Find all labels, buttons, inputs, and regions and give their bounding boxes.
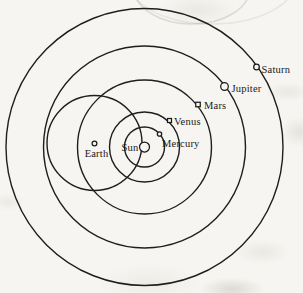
jupiter-label: Jupiter bbox=[232, 83, 262, 94]
jupiter-marker bbox=[221, 83, 229, 91]
mercury-label: Mercury bbox=[162, 138, 200, 149]
planet-markers-and-labels: SunMercuryVenusEarthMarsJupiterSaturn bbox=[85, 64, 291, 159]
planetary-system-diagram: SunMercuryVenusEarthMarsJupiterSaturn bbox=[0, 0, 303, 293]
scanned-book-page: SunMercuryVenusEarthMarsJupiterSaturn bbox=[0, 0, 303, 293]
mars-marker bbox=[196, 102, 201, 107]
sun-label: Sun bbox=[122, 142, 139, 153]
mercury-marker bbox=[157, 132, 161, 136]
saturn-label: Saturn bbox=[262, 64, 291, 75]
sun-marker bbox=[140, 142, 150, 152]
earth-marker bbox=[92, 141, 97, 146]
scan-ghost-arc bbox=[134, 0, 250, 24]
earth-label: Earth bbox=[85, 148, 109, 159]
venus-marker bbox=[168, 119, 172, 123]
saturn-marker bbox=[254, 64, 260, 70]
mars-label: Mars bbox=[204, 100, 226, 111]
scan-ghost-arc bbox=[128, 0, 296, 24]
venus-label: Venus bbox=[174, 116, 201, 127]
